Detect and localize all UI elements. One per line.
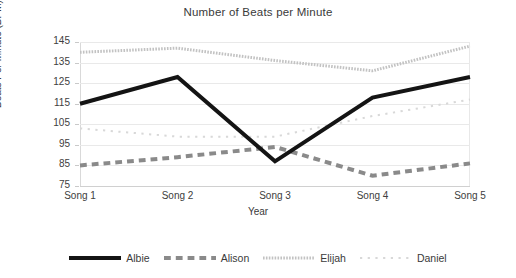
x-tick-label: Song 4 xyxy=(357,190,389,201)
x-tick-label: Song 3 xyxy=(259,190,291,201)
legend-label: Daniel xyxy=(417,252,447,264)
gridline xyxy=(80,186,470,187)
series-layer xyxy=(80,42,470,186)
legend-item-albie[interactable]: Albie xyxy=(69,252,149,264)
y-tick-mark xyxy=(75,104,79,105)
chart-title: Number of Beats per Minute xyxy=(0,6,516,18)
legend-swatch-albie xyxy=(69,253,121,263)
x-tick-label: Song 1 xyxy=(64,190,96,201)
y-tick-label: 135 xyxy=(36,56,70,67)
series-line-daniel xyxy=(80,100,470,137)
y-tick-mark xyxy=(75,186,79,187)
y-tick-mark xyxy=(75,63,79,64)
x-tick-label: Song 5 xyxy=(454,190,486,201)
legend-label: Alison xyxy=(221,252,250,264)
y-tick-label: 95 xyxy=(36,138,70,149)
y-tick-label: 145 xyxy=(36,35,70,46)
chart-legend: AlbieAlisonElijahDaniel xyxy=(0,252,516,264)
y-axis-title: Beats Per Minute (BPM) xyxy=(0,0,3,108)
legend-swatch-alison xyxy=(164,253,216,263)
legend-swatch-daniel xyxy=(360,253,412,263)
y-tick-label: 75 xyxy=(36,179,70,190)
y-tick-mark xyxy=(75,42,79,43)
legend-item-alison[interactable]: Alison xyxy=(164,252,250,264)
legend-label: Elijah xyxy=(320,252,346,264)
y-tick-mark xyxy=(75,145,79,146)
legend-item-elijah[interactable]: Elijah xyxy=(263,252,346,264)
x-axis-title: Year xyxy=(0,206,516,217)
y-tick-label: 105 xyxy=(36,117,70,128)
series-line-elijah xyxy=(80,46,470,71)
y-tick-mark xyxy=(75,124,79,125)
y-tick-label: 85 xyxy=(36,158,70,169)
y-tick-mark xyxy=(75,165,79,166)
legend-swatch-elijah xyxy=(263,253,315,263)
legend-item-daniel[interactable]: Daniel xyxy=(360,252,447,264)
x-tick-label: Song 2 xyxy=(162,190,194,201)
series-line-albie xyxy=(80,77,470,161)
y-tick-mark xyxy=(75,83,79,84)
chart-container: Number of Beats per Minute Beats Per Min… xyxy=(0,0,516,278)
legend-label: Albie xyxy=(126,252,149,264)
y-tick-label: 115 xyxy=(36,97,70,108)
y-tick-label: 125 xyxy=(36,76,70,87)
